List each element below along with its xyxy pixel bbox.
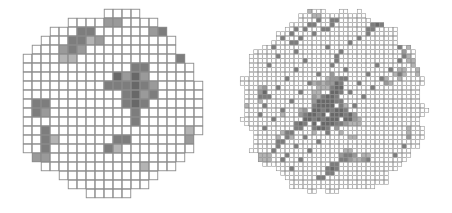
fine-grid-panel [226, 0, 452, 213]
fine-heatmap-canvas [226, 0, 452, 213]
coarse-heatmap-canvas [0, 0, 226, 213]
coarse-grid-panel [0, 0, 226, 213]
figure-root [0, 0, 452, 213]
